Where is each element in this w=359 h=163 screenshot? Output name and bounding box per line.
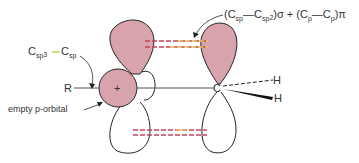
orbital-diagram: + R C H H (Csp—Csp2)σ + (Cp—Cp)π Csp3 [0,0,359,163]
sp3-sp-pointer-arrow [80,56,93,86]
sp3-back-lobe [142,71,155,100]
upper-pi-overlap-lines [145,41,208,47]
svg-text:Csp: Csp [61,45,76,60]
svg-text:Csp3: Csp3 [28,45,47,60]
empty-p-orbital-label: empty p-orbital [8,104,68,114]
overlap-formula-label: (Csp—Csp2)σ + (Cp—Cp)π [224,8,346,23]
r-group-label: R [64,82,72,94]
left-lower-p-lobe [110,102,150,153]
empty-orbital-pointer [84,104,100,110]
sp3-sp-bond-label: Csp3 Csp [28,45,76,60]
h-top-label: H [273,74,281,86]
svg-text:(Csp—Csp2)σ + (Cp—Cp)π: (Csp—Csp2)σ + (Cp—Cp)π [224,8,346,23]
lower-pi-overlap-lines [133,130,207,135]
right-upper-p-lobe [201,23,237,84]
sp2-carbon-label: C [213,82,221,94]
formula-arrowhead [193,32,199,38]
h-bottom-label: H [274,92,282,104]
dashed-h-bond [223,80,273,86]
right-lower-p-lobe [202,92,236,153]
plus-sign: + [114,82,120,94]
wedge-h-bond [223,89,273,100]
